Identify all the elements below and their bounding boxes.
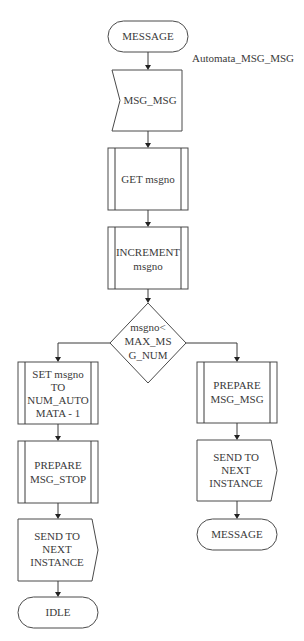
decision-line-1: msgno< xyxy=(130,321,166,333)
receive-msg-label: MSG_MSG xyxy=(123,94,176,106)
arrow-head-icon xyxy=(234,435,240,440)
send-left-line-1: SEND TO xyxy=(34,530,80,542)
arrow-head-icon xyxy=(145,65,151,70)
arrow-head-icon xyxy=(145,298,151,303)
get-msgno-node: GET msgno xyxy=(108,148,188,210)
arrow-head-icon xyxy=(234,514,240,519)
automata-label: Automata_MSG_MSG xyxy=(192,52,294,64)
idle-terminal-node: IDLE xyxy=(18,597,98,628)
arrow-head-icon xyxy=(55,436,61,441)
prepare-msg-line-1: PREPARE xyxy=(213,379,261,391)
start-terminal-label: MESSAGE xyxy=(122,30,174,42)
arrow-head-icon xyxy=(55,514,61,519)
prepare-msg-msg-node: PREPARE MSG_MSG xyxy=(197,362,277,423)
increment-line-2: msgno xyxy=(133,260,163,272)
arrow-head-icon xyxy=(55,357,61,362)
prepare-stop-line-2: MSG_STOP xyxy=(30,473,86,485)
receive-msg-node: MSG_MSG xyxy=(112,70,182,131)
flowchart-canvas: Automata_MSG_MSG MESSAGE MSG_MSG GET msg… xyxy=(0,0,304,641)
arrow-head-icon xyxy=(145,143,151,148)
prepare-msg-line-2: MSG_MSG xyxy=(210,393,263,405)
send-next-instance-right-node: SEND TO NEXT INSTANCE xyxy=(197,440,277,501)
prepare-stop-line-1: PREPARE xyxy=(34,459,82,471)
set-msgno-node: SET msgno TO NUM_AUTO MATA - 1 xyxy=(18,362,98,424)
end-message-label: MESSAGE xyxy=(211,528,263,540)
left-branch-connector xyxy=(58,343,110,358)
arrow-head-icon xyxy=(234,357,240,362)
arrow-head-icon xyxy=(145,222,151,227)
send-right-line-3: INSTANCE xyxy=(209,477,263,489)
get-msgno-label: GET msgno xyxy=(121,173,175,185)
send-left-line-2: NEXT xyxy=(42,543,72,555)
send-right-line-1: SEND TO xyxy=(213,451,259,463)
prepare-msg-stop-node: PREPARE MSG_STOP xyxy=(18,441,98,503)
send-right-line-2: NEXT xyxy=(221,464,251,476)
set-line-2: TO xyxy=(51,381,66,393)
set-line-1: SET msgno xyxy=(32,368,84,380)
arrow-head-icon xyxy=(55,592,61,597)
decision-line-3: G_NUM xyxy=(128,349,167,361)
decision-node: msgno< MAX_MS G_NUM xyxy=(110,303,186,383)
increment-msgno-node: INCREMENT msgno xyxy=(108,227,188,289)
set-line-3: NUM_AUTO xyxy=(27,394,89,406)
increment-line-1: INCREMENT xyxy=(116,246,180,258)
send-next-instance-left-node: SEND TO NEXT INSTANCE xyxy=(18,519,98,581)
send-left-line-3: INSTANCE xyxy=(30,556,84,568)
right-branch-connector xyxy=(186,343,237,358)
start-terminal-node: MESSAGE xyxy=(108,21,188,52)
decision-line-2: MAX_MS xyxy=(124,335,171,347)
set-line-4: MATA - 1 xyxy=(36,407,80,419)
end-message-terminal-node: MESSAGE xyxy=(197,519,277,550)
idle-terminal-label: IDLE xyxy=(45,606,70,618)
